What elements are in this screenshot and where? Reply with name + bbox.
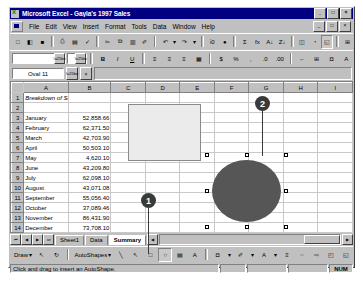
cell-a13[interactable]: November (24, 213, 69, 223)
cell-b6[interactable]: 50,503.10 (68, 143, 111, 153)
hscroll-thumb[interactable] (304, 235, 340, 244)
chevron-down-icon[interactable]: \u25be (75, 53, 86, 64)
fill-color-arrow-icon[interactable]: ▾ (225, 248, 232, 262)
column-header-d[interactable]: D (145, 83, 180, 93)
cell-d10[interactable] (145, 183, 180, 193)
save-icon[interactable]: ■ (37, 35, 48, 49)
name-box-chevron-down-icon[interactable]: \u25be (66, 67, 78, 80)
resize-handle-bottom-center[interactable] (245, 225, 249, 229)
menu-item-file[interactable]: File (26, 23, 42, 30)
resize-handle-bottom-right[interactable] (284, 225, 288, 229)
horizontal-scrollbar[interactable] (159, 234, 341, 245)
cell-h13[interactable] (283, 213, 318, 223)
shadow-icon[interactable]: ◰ (325, 248, 339, 262)
cell-h7[interactable] (283, 153, 318, 163)
insert-wordart-icon[interactable]: A (188, 248, 202, 262)
cut-icon[interactable]: ✂ (102, 35, 113, 49)
menu-item-help[interactable]: Help (199, 23, 218, 30)
sheet-nav-prev-icon[interactable]: ◀ (21, 234, 32, 245)
line-style-icon[interactable]: ≡ (280, 248, 294, 262)
print-icon[interactable]: ⎙ (57, 35, 68, 49)
cell-f2[interactable] (214, 103, 249, 113)
redo-dropdown-icon[interactable]: ▾ (192, 35, 198, 49)
cell-a2[interactable] (24, 103, 69, 113)
insert-hyperlink-icon[interactable]: ἱ0 (207, 35, 218, 49)
map-icon[interactable]: ◔ (309, 35, 320, 49)
column-header-e[interactable]: E (180, 83, 215, 93)
cell-c8[interactable] (111, 163, 146, 173)
cell-i11[interactable] (318, 193, 353, 203)
cell-c10[interactable] (111, 183, 146, 193)
menu-item-insert[interactable]: Insert (80, 23, 102, 30)
column-header-h[interactable]: H (283, 83, 318, 93)
sheet-tab-data[interactable]: Data (85, 235, 108, 245)
align-left-icon[interactable]: ≡ (148, 52, 162, 66)
resize-handle-bottom-left[interactable] (205, 225, 209, 229)
copy-icon[interactable]: ⧉ (114, 35, 125, 49)
row-header[interactable]: 5 (12, 133, 24, 143)
cell-f4[interactable] (214, 123, 249, 133)
row-header[interactable]: 12 (12, 203, 24, 213)
row-header[interactable]: 6 (12, 143, 24, 153)
autosum-icon[interactable]: Σ (239, 35, 250, 49)
rectangle-shape[interactable] (128, 104, 201, 161)
cell-h14[interactable] (283, 223, 318, 233)
cell-i10[interactable] (318, 183, 353, 193)
column-header-g[interactable]: G (249, 83, 284, 93)
cell-b7[interactable]: 4,620.10 (68, 153, 111, 163)
fill-color-icon[interactable]: ◘ (325, 52, 339, 66)
cell-b4[interactable]: 62,371.50 (68, 123, 111, 133)
cell-b9[interactable]: 62,098.10 (68, 173, 111, 183)
arrow-style-icon[interactable]: ⇨ (310, 248, 324, 262)
fill-color-icon[interactable]: ◘ (211, 248, 225, 262)
row-header[interactable]: 7 (12, 153, 24, 163)
font-size-combo[interactable]: \u25be (67, 53, 87, 64)
cell-a8[interactable]: June (24, 163, 69, 173)
cell-i2[interactable] (318, 103, 353, 113)
cell-h5[interactable] (283, 133, 318, 143)
sort-ascending-icon[interactable]: A↓ (264, 35, 275, 49)
format-painter-icon[interactable]: ✐ (139, 35, 150, 49)
cell-h1[interactable] (283, 93, 318, 103)
cell-h4[interactable] (283, 123, 318, 133)
cell-i9[interactable] (318, 173, 353, 183)
resize-handle-top-center[interactable] (245, 153, 249, 157)
font-color-icon[interactable]: A (339, 52, 353, 66)
cell-a12[interactable]: October (24, 203, 69, 213)
resize-handle-top-right[interactable] (284, 153, 288, 157)
cell-i7[interactable] (318, 153, 353, 163)
cell-a5[interactable]: March (24, 133, 69, 143)
font-color-icon[interactable]: A (257, 248, 271, 262)
cell-b5[interactable]: 42,703.90 (68, 133, 111, 143)
column-header-f[interactable]: F (214, 83, 249, 93)
percent-icon[interactable]: % (229, 52, 243, 66)
chevron-down-icon[interactable]: \u25be (54, 53, 65, 64)
row-header[interactable]: 13 (12, 213, 24, 223)
cell-i1[interactable] (318, 93, 353, 103)
cell-i5[interactable] (318, 133, 353, 143)
borders-icon[interactable]: ⊞ (310, 52, 324, 66)
cell-i13[interactable] (318, 213, 353, 223)
font-name-combo[interactable]: \u25be (12, 53, 66, 64)
row-header[interactable]: 15 (12, 233, 24, 234)
cell-h8[interactable] (283, 163, 318, 173)
cell-d9[interactable] (145, 173, 180, 183)
column-header-a[interactable]: A (24, 83, 69, 93)
cell-i4[interactable] (318, 123, 353, 133)
name-box[interactable]: Oval 11 (12, 68, 64, 79)
cell-a9[interactable]: July (24, 173, 69, 183)
line-color-icon[interactable]: ✐ (234, 248, 248, 262)
resize-handle-middle-left[interactable] (205, 189, 209, 193)
cell-g15[interactable] (249, 233, 284, 234)
align-center-icon[interactable]: ≡ (163, 52, 177, 66)
dash-style-icon[interactable]: ┈ (295, 248, 309, 262)
comma-icon[interactable]: , (244, 52, 258, 66)
cell-a15[interactable] (24, 233, 69, 234)
cell-h11[interactable] (283, 193, 318, 203)
free-rotate-icon[interactable]: ↻ (50, 248, 64, 262)
chart-wizard-icon[interactable]: ◫ (297, 35, 308, 49)
cell-h10[interactable] (283, 183, 318, 193)
cell-d8[interactable] (145, 163, 180, 173)
cell-e15[interactable] (180, 233, 215, 234)
sheet-nav-first-icon[interactable]: ⏮ (10, 234, 21, 245)
